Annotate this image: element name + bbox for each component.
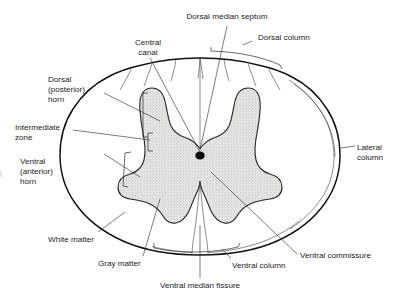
svg-text:Gray matter: Gray matter [98,259,141,268]
svg-text:Dorsal median septum: Dorsal median septum [187,12,268,21]
central-canal-dot [196,152,205,160]
spinal-cord-diagram: Dorsal median septum Dorsal column Centr… [0,0,400,299]
svg-text:canal: canal [138,48,158,57]
svg-text:zone: zone [15,133,33,142]
svg-text:horn: horn [20,177,36,186]
svg-text:White matter: White matter [48,235,94,244]
svg-text:Ventral: Ventral [20,157,45,166]
label-ventral-commissure: Ventral commissure [300,251,372,260]
svg-text:Dorsal column: Dorsal column [258,33,310,42]
label-dorsal-median-septum: Dorsal median septum [187,12,268,21]
label-ventral-anterior-horn: Ventral (anterior) horn [20,157,53,186]
svg-text:Ventral column: Ventral column [232,261,286,270]
label-ventral-median-fissure: Ventral median fissure [160,281,241,290]
svg-text:(posterior): (posterior) [48,85,85,94]
svg-text:Ventral commissure: Ventral commissure [300,251,372,260]
label-gray-matter: Gray matter [98,259,141,268]
svg-text:Central: Central [135,38,161,47]
label-central-canal: Central canal [135,38,161,57]
label-intermediate-zone: Intermediate zone [15,123,60,142]
label-lateral-column: Lateral column [357,143,383,162]
svg-text:Dorsal: Dorsal [48,75,72,84]
label-ventral-column: Ventral column [232,261,286,270]
svg-text:Ventral median fissure: Ventral median fissure [160,281,241,290]
label-dorsal-column: Dorsal column [258,33,310,42]
svg-text:Intermediate: Intermediate [15,123,60,132]
svg-text:column: column [357,153,383,162]
scan-artifact [0,170,2,177]
svg-text:horn: horn [48,95,64,104]
label-white-matter: White matter [48,235,94,244]
svg-text:(anterior): (anterior) [20,167,53,176]
svg-text:Lateral: Lateral [357,143,382,152]
